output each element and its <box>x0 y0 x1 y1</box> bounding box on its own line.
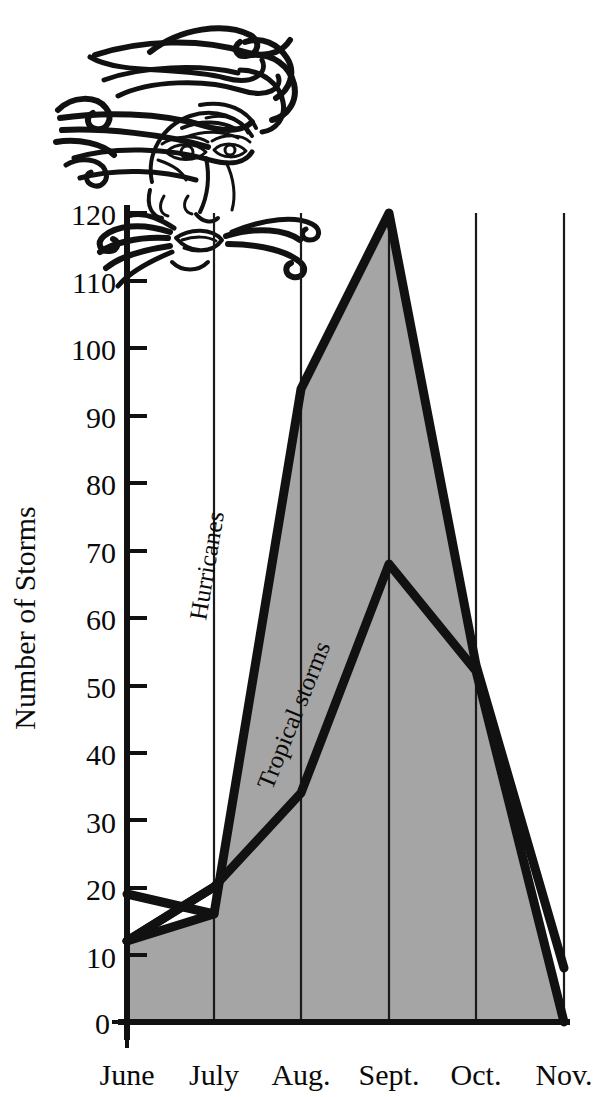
series-label-hurricanes: Hurricanes <box>184 509 229 622</box>
storms-chart: 120 110 100 90 80 70 60 50 40 30 20 10 0… <box>0 0 609 1097</box>
x-tick-sept: Sept. <box>359 1058 420 1091</box>
y-tick-110: 110 <box>72 266 116 299</box>
x-tick-nov: Nov. <box>535 1058 592 1091</box>
y-axis-tick-labels: 120 110 100 90 80 70 60 50 40 30 20 10 0 <box>71 198 116 1040</box>
y-tick-80: 80 <box>86 468 116 501</box>
wind-face-illustration <box>56 28 319 286</box>
y-tick-120: 120 <box>71 198 116 231</box>
x-axis-tick-labels: June July Aug. Sept. Oct. Nov. <box>100 1058 593 1091</box>
y-tick-0: 0 <box>95 1007 110 1040</box>
y-tick-30: 30 <box>86 806 116 839</box>
y-tick-40: 40 <box>86 738 116 771</box>
x-tick-july: July <box>189 1058 239 1091</box>
y-tick-50: 50 <box>86 671 116 704</box>
y-tick-20: 20 <box>86 873 116 906</box>
x-tick-june: June <box>100 1058 155 1091</box>
y-tick-10: 10 <box>86 941 116 974</box>
y-tick-90: 90 <box>86 401 116 434</box>
y-tick-100: 100 <box>71 333 116 366</box>
y-tick-70: 70 <box>86 536 116 569</box>
y-axis-title: Number of Storms <box>8 506 41 729</box>
chart-canvas: 120 110 100 90 80 70 60 50 40 30 20 10 0… <box>0 0 609 1097</box>
x-tick-oct: Oct. <box>451 1058 502 1091</box>
x-tick-aug: Aug. <box>271 1058 330 1091</box>
y-tick-60: 60 <box>86 603 116 636</box>
